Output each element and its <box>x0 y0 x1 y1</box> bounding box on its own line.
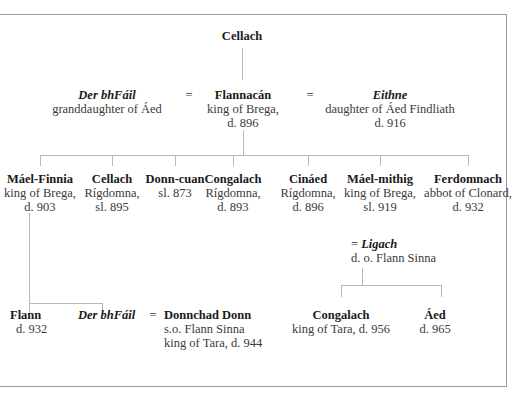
person-desc: sl. 919 <box>344 200 416 214</box>
person-name: Donn-cuan <box>145 172 204 186</box>
person-name: Donnchad Donn <box>164 308 262 322</box>
line-ligach-down <box>362 268 363 285</box>
node-donnchad-donn: Donnchad Donn s.o. Flann Sinna king of T… <box>164 308 262 350</box>
node-congalach-king-of-tara: Congalach king of Tara, d. 956 <box>292 308 390 336</box>
person-desc: d. o. Flann Sinna <box>351 251 436 265</box>
person-name: Máel-Finnia <box>4 172 76 186</box>
person-name: Der bhFáil <box>52 88 162 102</box>
person-desc: d. 932 <box>10 322 47 336</box>
node-aed: Áed d. 965 <box>419 308 450 336</box>
line-children-bar <box>40 155 469 156</box>
line-drop-maelfinnia <box>40 155 41 166</box>
person-name: Eithne <box>325 88 455 102</box>
person-name: Máel-mithig <box>344 172 416 186</box>
person-desc: d. 932 <box>424 200 512 214</box>
person-desc: Rígdomna, <box>280 186 335 200</box>
person-desc: king of Brega, <box>4 186 76 200</box>
marriage-sign: = <box>149 308 156 323</box>
person-desc: d. 916 <box>325 116 455 130</box>
node-ferdomnach: Ferdomnach abbot of Clonard, d. 932 <box>424 172 512 214</box>
person-desc: granddaughter of Áed <box>52 102 162 116</box>
node-der-bhfail-wife: Der bhFáil granddaughter of Áed <box>52 88 162 116</box>
person-desc: sl. 895 <box>84 200 139 214</box>
person-desc: king of Brega, <box>207 102 279 116</box>
person-desc: d. 903 <box>4 200 76 214</box>
person-desc: daughter of Áed Findliath <box>325 102 455 116</box>
line-drop-donncuan <box>175 155 176 166</box>
line-maelfinnia-children-bar <box>29 303 103 304</box>
line-maelfinnia-down <box>29 213 30 304</box>
line-ligach-children-bar <box>341 285 442 286</box>
person-name: Cináed <box>280 172 335 186</box>
node-cinaed: Cináed Rígdomna, d. 896 <box>280 172 335 214</box>
marriage-sign: = <box>306 88 313 103</box>
line-drop-cinaed <box>308 155 309 166</box>
person-desc: king of Tara, d. 944 <box>164 336 262 350</box>
line-drop-ferdomnach <box>468 155 469 166</box>
person-name: Congalach <box>292 308 390 322</box>
person-name: Congalach <box>205 172 262 186</box>
node-flann: Flann d. 932 <box>10 308 47 336</box>
person-desc: abbot of Clonard, <box>424 186 512 200</box>
frame-border-bottom <box>0 386 507 387</box>
line-drop-maelmithig <box>380 155 381 166</box>
node-mael-finnia: Máel-Finnia king of Brega, d. 903 <box>4 172 76 214</box>
frame-border-top <box>0 14 507 15</box>
person-desc: Rígdomna, <box>205 186 262 200</box>
person-desc: sl. 873 <box>145 186 204 200</box>
node-der-bhfail-daughter: Der bhFáil <box>78 308 135 322</box>
person-name: Áed <box>419 308 450 322</box>
node-donn-cuan: Donn-cuan sl. 873 <box>145 172 204 200</box>
person-name: Cellach <box>222 29 262 43</box>
node-flannacan: Flannacán king of Brega, d. 896 <box>207 88 279 130</box>
line-drop-congalach <box>233 155 234 166</box>
person-name: Ligach <box>361 237 397 251</box>
node-cellach-son: Cellach Rígdomna, sl. 895 <box>84 172 139 214</box>
node-eithne: Eithne daughter of Áed Findliath d. 916 <box>325 88 455 130</box>
person-name: Flann <box>10 308 47 322</box>
person-desc: Rígdomna, <box>84 186 139 200</box>
person-desc: d. 965 <box>419 322 450 336</box>
person-desc: d. 896 <box>280 200 335 214</box>
person-name: Flannacán <box>207 88 279 102</box>
line-drop-cellach <box>112 155 113 166</box>
node-ligach: = Ligach d. o. Flann Sinna <box>351 237 436 265</box>
node-cellach-root: Cellach <box>222 29 262 43</box>
person-desc: king of Tara, d. 956 <box>292 322 390 336</box>
person-name: Ferdomnach <box>424 172 512 186</box>
person-desc: d. 893 <box>205 200 262 214</box>
line-drop-congalach2 <box>341 285 342 297</box>
person-desc: king of Brega, <box>344 186 416 200</box>
person-desc: d. 896 <box>207 116 279 130</box>
person-name: Der bhFáil <box>78 308 135 322</box>
line-flannacan-to-children <box>243 130 244 155</box>
person-name: Cellach <box>84 172 139 186</box>
node-mael-mithig: Máel-mithig king of Brega, sl. 919 <box>344 172 416 214</box>
line-drop-aed <box>441 285 442 297</box>
line-cellach-to-flannacan <box>242 48 243 80</box>
person-desc: s.o. Flann Sinna <box>164 322 262 336</box>
marriage-sign: = <box>351 237 358 251</box>
marriage-sign: = <box>185 88 192 103</box>
node-congalach-son: Congalach Rígdomna, d. 893 <box>205 172 262 214</box>
